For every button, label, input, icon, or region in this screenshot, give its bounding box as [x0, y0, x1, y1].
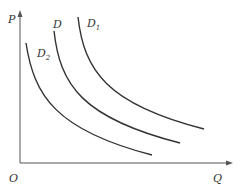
x-axis-arrow-icon: [226, 161, 233, 166]
y-axis-label: P: [7, 13, 16, 26]
curves: [26, 17, 204, 155]
curve-d-label: D: [52, 18, 62, 31]
curve-d: [54, 31, 180, 143]
curve-d1-label: D1: [86, 17, 100, 32]
curve-d2-label: D2: [36, 47, 51, 62]
curve-d1: [78, 17, 204, 129]
x-axis-label: Q: [213, 172, 222, 185]
y-axis-arrow-icon: [18, 10, 23, 17]
demand-curves-chart: P Q O D2 D D1: [0, 0, 241, 191]
origin-label: O: [9, 172, 18, 185]
axes: [18, 10, 234, 166]
